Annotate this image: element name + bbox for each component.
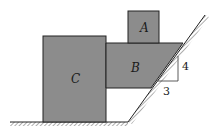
diagram-svg: C B A 4 3 [0,0,222,135]
block-a-label: A [139,21,149,35]
diagram-canvas: C B A 4 3 [0,0,222,135]
slope-run-label: 3 [163,85,170,98]
ground-hatching [10,122,128,126]
block-c-label: C [71,72,80,86]
slope-rise-label: 4 [182,60,189,73]
block-b-label: B [130,61,140,75]
